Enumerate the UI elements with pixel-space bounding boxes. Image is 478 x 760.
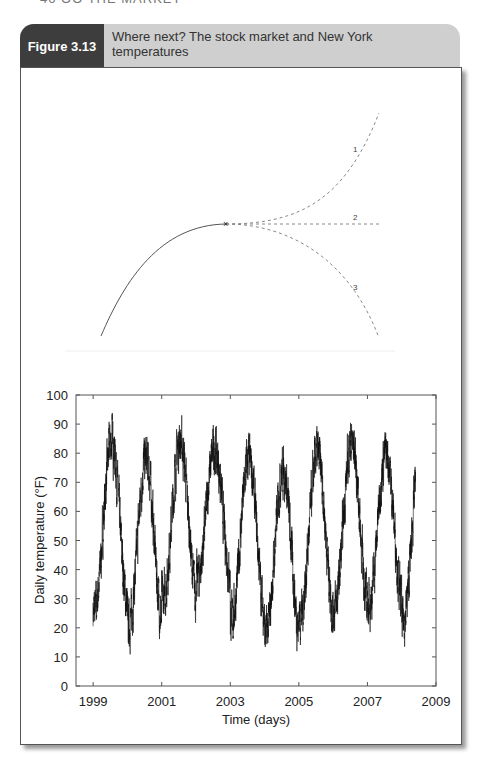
x-tick-label: 2007 [353,694,382,709]
trajectory-diagram: × 1 2 3 [65,113,395,351]
y-tick-label: 90 [54,417,68,432]
x-tick-label: 1999 [79,694,108,709]
branch-2-label: 2 [353,213,358,222]
branch-1-label: 1 [353,145,358,154]
y-axis-label: Daily temperature (°F) [32,476,47,604]
y-tick-label: 10 [54,650,68,665]
peak-marker: × [223,219,228,229]
branch-3-label: 3 [353,283,358,292]
y-tick-label: 100 [46,388,68,403]
y-tick-label: 30 [54,592,68,607]
y-tick-label: 20 [54,621,68,636]
y-tick-label: 70 [54,475,68,490]
figure-graphics: × 1 2 3 0102030405060708090100 199920012… [0,0,478,760]
branch-1-up [226,113,379,224]
x-axis-label: Time (days) [222,712,290,727]
temperature-chart: 0102030405060708090100 19992001200320052… [32,388,450,727]
x-tick-label: 2001 [147,694,176,709]
y-tick-label: 40 [54,563,68,578]
x-tick-label: 2005 [284,694,313,709]
temperature-series [93,413,415,654]
branch-3-down [226,224,379,338]
y-tick-label: 60 [54,504,68,519]
x-tick-label: 2009 [422,694,451,709]
y-tick-label: 50 [54,534,68,549]
x-tick-label: 2003 [216,694,245,709]
historical-curve [101,224,226,336]
y-tick-label: 0 [61,679,68,694]
y-tick-label: 80 [54,446,68,461]
x-axis: 199920012003200520072009 [79,395,451,709]
